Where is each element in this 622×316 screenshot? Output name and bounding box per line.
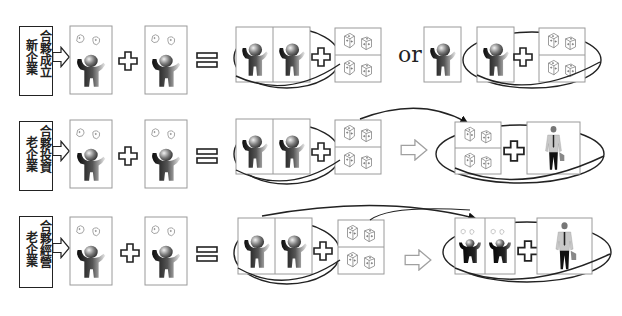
row-1 xyxy=(53,26,601,94)
plus-icon xyxy=(119,147,137,165)
equals-icon xyxy=(197,149,217,163)
plus-icon xyxy=(314,242,332,260)
row-3 xyxy=(53,205,611,285)
equals-icon xyxy=(197,53,217,67)
hollow-right-arrow-icon xyxy=(405,250,431,270)
row-1-label-box: 新企業 合夥成立 xyxy=(19,26,53,96)
block-arrow-icon xyxy=(53,47,70,67)
equals-icon xyxy=(197,247,217,261)
row-3-label-box: 老企業 合夥經營 xyxy=(19,216,53,288)
row-3-mode-label: 合夥經營 xyxy=(37,220,50,268)
plus-icon xyxy=(312,143,330,161)
plus-icon xyxy=(312,48,330,66)
row-2 xyxy=(53,108,604,188)
transfer-arrow xyxy=(262,205,474,218)
hollow-right-arrow-icon xyxy=(401,140,427,160)
diagram-canvas xyxy=(0,0,622,316)
or-connector: or xyxy=(398,42,422,67)
row-2-label-box: 老企業 合夥投資 xyxy=(19,121,53,191)
plus-icon xyxy=(504,141,524,161)
row-2-entity-label: 老企業 xyxy=(23,136,36,172)
plus-icon xyxy=(518,241,538,261)
plus-icon xyxy=(119,52,137,70)
block-arrow-icon xyxy=(53,141,70,161)
block-arrow-icon xyxy=(53,238,70,258)
row-1-mode-label: 合夥成立 xyxy=(37,30,50,78)
row-3-entity-label: 老企業 xyxy=(23,231,36,267)
plus-icon xyxy=(121,244,139,262)
row-1-entity-label: 新企業 xyxy=(23,39,36,75)
plus-icon xyxy=(514,48,532,66)
row-2-mode-label: 合夥投資 xyxy=(37,125,50,173)
